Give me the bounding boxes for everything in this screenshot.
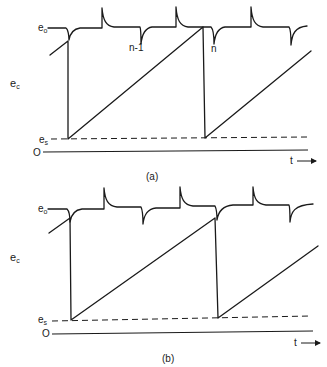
time-label-a: t — [290, 155, 293, 166]
zero-axis-b — [52, 331, 313, 334]
oscillator-waveform-diagram: eo ec es O n-1 n t (a) eo ec es O t (b) — [0, 0, 327, 367]
es-level-line-a — [51, 137, 308, 139]
e0-label-b: eo — [38, 203, 48, 215]
panel-a: eo ec es O n-1 n t (a) — [10, 7, 316, 182]
pulse-label-n: n — [211, 43, 217, 54]
e0-pulse-trace-b — [48, 187, 313, 224]
zero-label-b: O — [42, 328, 50, 339]
e0-pulse-trace-a — [48, 7, 307, 45]
caption-b: (b) — [162, 353, 174, 364]
e0-label-a: eo — [38, 22, 48, 34]
ec-axis-label-b: ec — [10, 251, 20, 264]
zero-label-a: O — [33, 147, 41, 158]
sawtooth-ramp-b — [49, 218, 318, 320]
sawtooth-ramp-a — [50, 27, 311, 139]
caption-a: (a) — [146, 171, 158, 182]
es-label-b: es — [38, 314, 48, 326]
es-level-line-b — [52, 316, 311, 321]
ec-axis-label-a: ec — [10, 77, 20, 90]
time-label-b: t — [294, 337, 297, 348]
zero-axis-a — [43, 150, 308, 152]
panel-b: eo ec es O t (b) — [10, 187, 320, 364]
es-label-a: es — [39, 134, 49, 146]
